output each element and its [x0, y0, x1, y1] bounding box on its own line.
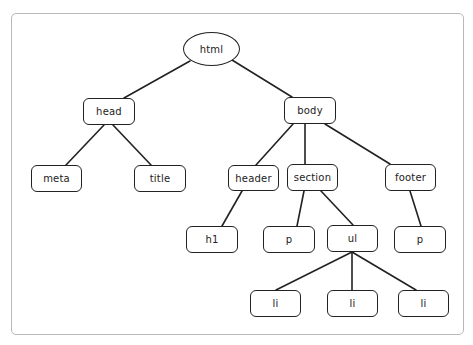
node-footer: footer — [385, 164, 436, 191]
node-title: title — [134, 165, 186, 192]
node-html: html — [183, 32, 240, 66]
node-p2: p — [394, 226, 446, 253]
node-ul: ul — [327, 225, 378, 252]
edge-html-body — [232, 60, 292, 97]
edge-ul-li1 — [276, 252, 352, 290]
node-li3: li — [398, 290, 449, 317]
node-head: head — [83, 98, 135, 125]
edge-section-ul — [321, 191, 353, 225]
edge-body-footer — [325, 124, 390, 164]
edge-head-meta — [66, 125, 104, 165]
edge-html-head — [124, 61, 190, 98]
edge-header-h1 — [222, 191, 242, 226]
node-h1: h1 — [186, 226, 238, 253]
edge-section-p1 — [297, 191, 304, 226]
edge-body-header — [256, 124, 293, 165]
edge-ul-li3 — [352, 252, 416, 290]
node-header: header — [228, 165, 279, 191]
node-meta: meta — [31, 165, 82, 192]
node-li1: li — [250, 290, 301, 317]
node-p1: p — [263, 226, 315, 253]
node-body: body — [284, 97, 336, 124]
node-li2: li — [327, 290, 378, 317]
edge-footer-p2 — [410, 191, 421, 226]
edge-head-title — [113, 125, 151, 165]
node-section: section — [287, 164, 338, 191]
